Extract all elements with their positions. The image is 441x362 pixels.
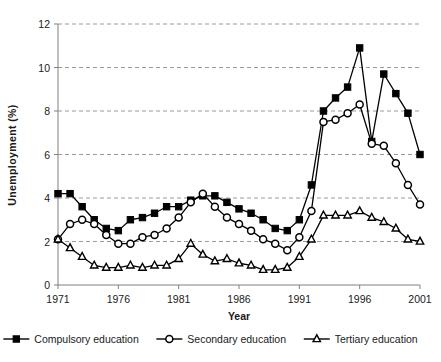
data-point-marker [115,227,121,233]
data-point-marker [356,101,363,108]
data-point-marker [296,234,303,241]
data-point-marker [175,204,181,210]
data-point-marker [308,208,315,215]
legend-label: Secondary education [187,333,286,345]
legend-marker-open-circle [166,336,173,343]
x-tick-label: 1971 [46,293,70,305]
y-tick-label: 6 [44,149,50,161]
x-tick-label: 1991 [288,293,312,305]
data-point-marker [236,221,243,228]
x-tick-label: 2001 [408,293,432,305]
data-point-marker [163,204,169,210]
data-point-marker [151,210,157,216]
data-point-marker [212,193,218,199]
data-point-marker [55,190,61,196]
data-point-marker [272,240,279,247]
data-point-marker [393,90,399,96]
chart-background [0,0,441,362]
data-point-marker [392,160,399,167]
data-point-marker [308,182,314,188]
data-point-marker [91,221,98,228]
data-point-marker [127,240,134,247]
x-tick-label: 1986 [227,293,251,305]
data-point-marker [199,190,206,197]
legend-marker-filled-square [13,336,19,342]
data-point-marker [175,214,182,221]
x-tick-label: 1996 [348,293,372,305]
data-point-marker [404,181,411,188]
data-point-marker [272,225,278,231]
data-point-marker [139,234,146,241]
data-point-marker [103,225,109,231]
y-tick-label: 12 [38,18,50,30]
data-point-marker [67,190,73,196]
y-tick-label: 2 [44,236,50,248]
data-point-marker [405,110,411,116]
y-tick-label: 8 [44,105,50,117]
data-point-marker [296,217,302,223]
data-point-marker [417,201,424,208]
x-axis-title: Year [228,310,250,322]
chart-legend: Compulsory educationSecondary educationT… [3,333,417,345]
data-point-marker [344,110,351,117]
data-point-marker [236,206,242,212]
chart-canvas: 024681012 1971197619811986199119962001 Y… [0,0,441,362]
data-point-marker [368,140,375,147]
data-point-marker [381,71,387,77]
y-tick-label: 10 [38,62,50,74]
data-point-marker [79,204,85,210]
y-axis-title: Unemployment (%) [6,104,18,206]
data-point-marker [356,45,362,51]
data-point-marker [115,240,122,247]
y-tick-label: 0 [44,279,50,291]
data-point-marker [163,225,170,232]
data-point-marker [79,216,86,223]
data-point-marker [151,231,158,238]
data-point-marker [127,217,133,223]
data-point-marker [332,116,339,123]
data-point-marker [248,210,254,216]
x-tick-label: 1976 [107,293,131,305]
x-tick-label: 1981 [167,293,191,305]
data-point-marker [380,142,387,149]
data-point-marker [211,203,218,210]
data-point-marker [260,236,267,243]
unemployment-line-chart: 024681012 1971197619811986199119962001 Y… [0,0,441,362]
legend-label: Tertiary education [335,333,418,345]
data-point-marker [284,247,291,254]
data-point-marker [344,84,350,90]
y-tick-label: 4 [44,192,50,204]
legend-label: Compulsory education [34,333,139,345]
data-point-marker [224,199,230,205]
data-point-marker [320,118,327,125]
data-point-marker [187,199,194,206]
data-point-marker [417,151,423,157]
data-point-marker [332,95,338,101]
data-point-marker [223,214,230,221]
data-point-marker [248,227,255,234]
data-point-marker [284,227,290,233]
data-point-marker [260,217,266,223]
data-point-marker [103,231,110,238]
data-point-marker [320,108,326,114]
data-point-marker [67,221,74,228]
data-point-marker [139,214,145,220]
